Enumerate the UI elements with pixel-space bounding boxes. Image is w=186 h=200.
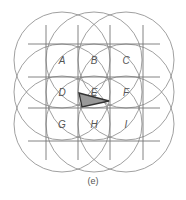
cell-label-d: D: [58, 87, 65, 98]
figure-caption: (e): [88, 176, 99, 186]
cell-label-h: H: [90, 119, 98, 130]
voronoi-grid-diagram: ABCDEFGHI (e): [0, 0, 186, 200]
cell-label-a: A: [58, 55, 66, 66]
cell-label-g: G: [58, 119, 66, 130]
cell-label-e: E: [91, 87, 98, 98]
cell-label-c: C: [122, 55, 130, 66]
cell-label-b: B: [91, 55, 98, 66]
cell-label-i: I: [125, 119, 128, 130]
cell-labels: ABCDEFGHI: [58, 55, 131, 130]
cell-label-f: F: [123, 87, 130, 98]
